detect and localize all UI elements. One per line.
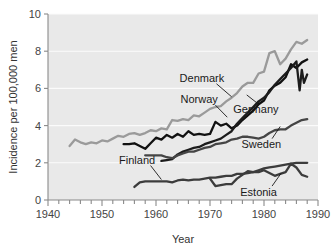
incidence-line-chart: 0246810 194019501960197019801990 Denmark…	[0, 0, 333, 248]
y-tick-label-8: 8	[35, 45, 41, 57]
series-label-denmark: Denmark	[180, 72, 225, 84]
chart-figure: 0246810 194019501960197019801990 Denmark…	[0, 0, 333, 248]
y-tick-labels: 0246810	[29, 8, 41, 206]
y-axis: 0246810	[29, 8, 48, 206]
series-label-germany: Germany	[233, 103, 279, 115]
x-tick-marks	[48, 200, 318, 206]
y-tick-label-2: 2	[35, 157, 41, 169]
x-tick-labels: 194019501960197019801990	[36, 208, 330, 220]
y-axis-title: Incidence per 100,000 men	[7, 40, 19, 173]
y-tick-label-10: 10	[29, 8, 41, 20]
y-tick-label-6: 6	[35, 82, 41, 94]
y-tick-marks	[44, 14, 48, 200]
x-tick-label-1990: 1990	[306, 208, 330, 220]
x-axis-title: Year	[172, 233, 195, 245]
x-tick-label-1960: 1960	[144, 208, 168, 220]
x-tick-label-1940: 1940	[36, 208, 60, 220]
x-axis: 194019501960197019801990	[36, 200, 330, 220]
y-tick-label-4: 4	[35, 120, 41, 132]
series-label-finland: Finland	[119, 154, 155, 166]
x-tick-label-1950: 1950	[90, 208, 114, 220]
x-tick-label-1970: 1970	[198, 208, 222, 220]
series-label-sweden: Sweden	[241, 138, 281, 150]
series-label-norway: Norway	[181, 93, 219, 105]
y-tick-label-0: 0	[35, 194, 41, 206]
series-label-estonia: Estonia	[240, 186, 278, 198]
x-tick-label-1980: 1980	[252, 208, 276, 220]
